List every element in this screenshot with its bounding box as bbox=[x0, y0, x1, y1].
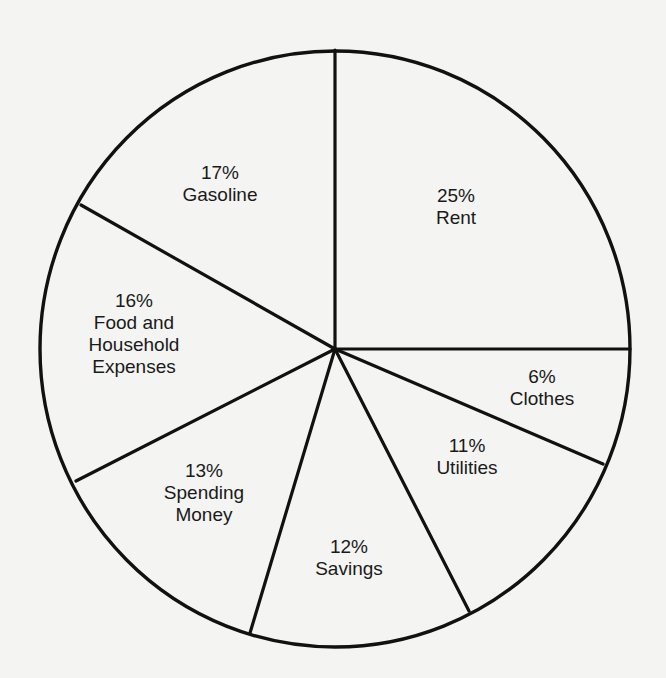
slice-label-utilities: 11%Utilities bbox=[436, 435, 497, 479]
slice-name: Savings bbox=[315, 558, 383, 580]
slice-name: Household bbox=[89, 334, 180, 356]
slice-divider bbox=[250, 349, 335, 633]
slice-percent: 17% bbox=[183, 162, 258, 184]
slice-label-food_household: 16%Food andHouseholdExpenses bbox=[89, 290, 180, 378]
slice-name: Money bbox=[164, 504, 244, 526]
slice-percent: 13% bbox=[164, 460, 244, 482]
slice-name: Expenses bbox=[89, 356, 180, 378]
slice-name: Gasoline bbox=[183, 184, 258, 206]
slice-percent: 12% bbox=[315, 536, 383, 558]
slice-label-spending_money: 13%SpendingMoney bbox=[164, 460, 244, 526]
slice-percent: 11% bbox=[436, 435, 497, 457]
slice-percent: 6% bbox=[510, 366, 574, 388]
slice-name: Utilities bbox=[436, 457, 497, 479]
slice-name: Rent bbox=[436, 207, 476, 229]
slice-percent: 16% bbox=[89, 290, 180, 312]
slice-label-clothes: 6%Clothes bbox=[510, 366, 574, 410]
slice-label-rent: 25%Rent bbox=[436, 185, 476, 229]
slice-name: Clothes bbox=[510, 388, 574, 410]
slice-percent: 25% bbox=[436, 185, 476, 207]
slice-label-savings: 12%Savings bbox=[315, 536, 383, 580]
slice-name: Spending bbox=[164, 482, 244, 504]
slice-label-gasoline: 17%Gasoline bbox=[183, 162, 258, 206]
slice-name: Food and bbox=[89, 312, 180, 334]
